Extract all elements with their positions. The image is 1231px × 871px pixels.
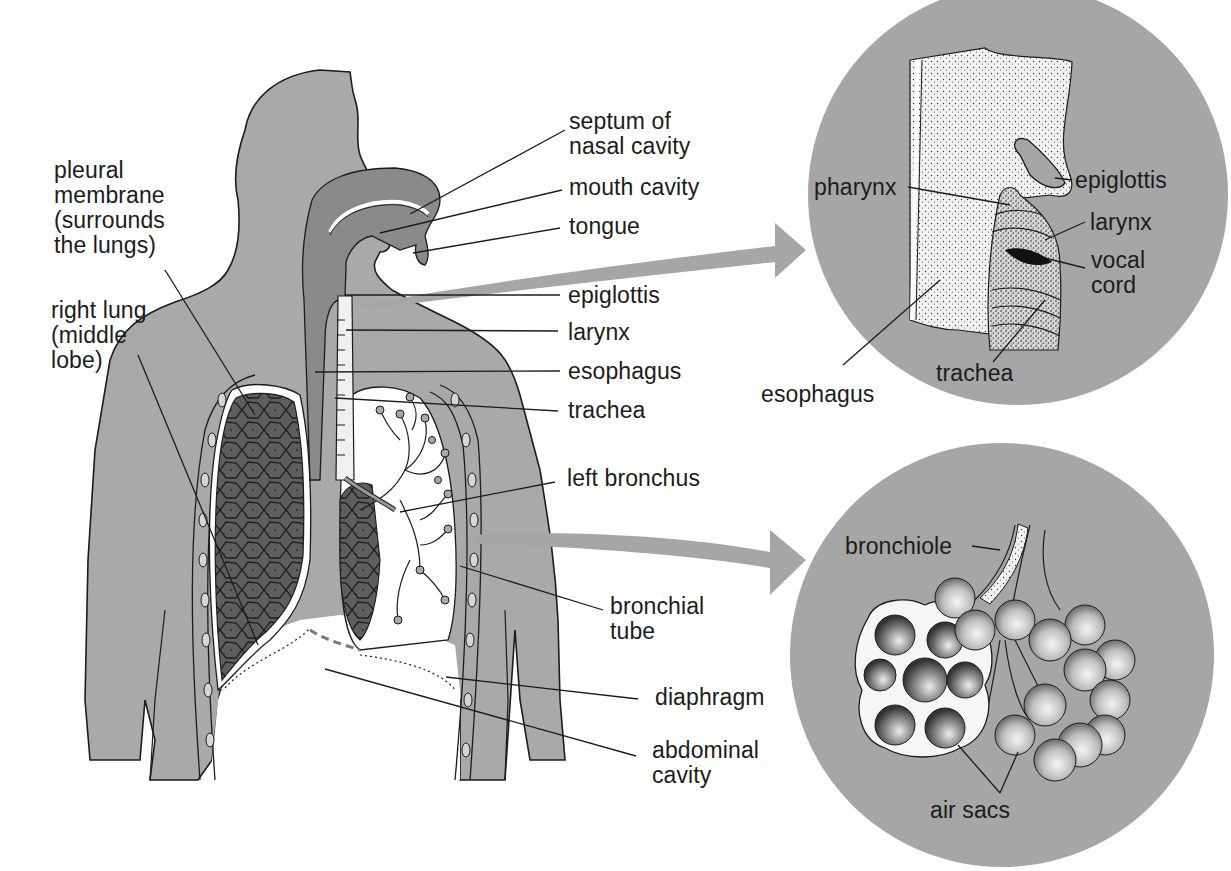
label-mouth-cavity: mouth cavity xyxy=(569,175,699,200)
label-inset-epiglottis: epiglottis xyxy=(1075,168,1167,193)
label-epiglottis: epiglottis xyxy=(568,283,660,308)
label-larynx: larynx xyxy=(568,320,630,345)
label-inset-vocal-cord: vocal cord xyxy=(1091,248,1145,298)
inset-throat xyxy=(808,0,1228,405)
label-inset-air-sacs: air sacs xyxy=(930,798,1010,823)
label-inset-esophagus: esophagus xyxy=(761,382,874,407)
label-right-lung: right lung (middle lobe) xyxy=(51,298,147,373)
label-abdominal-cavity: abdominal cavity xyxy=(652,738,759,788)
label-pleural-membrane: pleural membrane (surrounds the lungs) xyxy=(54,158,165,258)
label-diaphragm: diaphragm xyxy=(655,685,765,710)
label-esophagus: esophagus xyxy=(568,359,681,384)
label-tongue: tongue xyxy=(569,214,640,239)
label-septum-of-nasal-cavity: septum of nasal cavity xyxy=(569,109,690,159)
label-bronchial-tube: bronchial tube xyxy=(610,594,704,644)
label-trachea: trachea xyxy=(568,398,645,423)
label-inset-larynx: larynx xyxy=(1090,210,1152,235)
label-inset-pharynx: pharynx xyxy=(814,175,897,200)
label-left-bronchus: left bronchus xyxy=(567,466,700,491)
label-inset-trachea: trachea xyxy=(936,361,1013,386)
label-inset-bronchiole: bronchiole xyxy=(845,534,952,559)
